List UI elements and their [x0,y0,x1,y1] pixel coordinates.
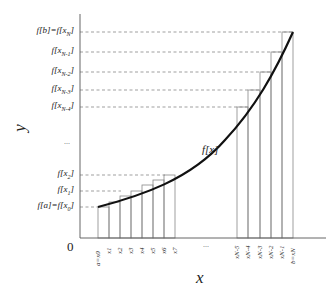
x-label-xN-3: xN-3 [256,245,264,259]
x-label-x4: x4 [138,247,146,254]
x-label-x2: x2 [116,247,124,254]
x-axis-title: x [196,268,204,288]
y-label-f-xN-3: f[xN-3] [0,83,74,95]
x-label-a: a=x0 [94,251,102,266]
function-curve [98,32,293,207]
x-label-xN-5: xN-5 [233,245,241,259]
curve-label: f[x] [202,143,219,155]
x-ellipsis: ... [203,240,209,249]
origin-label: 0 [67,239,74,255]
y-ellipsis: ... [64,137,70,146]
x-label-xN-1: xN-1 [278,245,286,259]
x-label-xN-2: xN-2 [267,245,275,259]
y-label-f-b: f[b]=f[xN] [0,25,74,37]
y-axis-title: y [10,124,30,132]
y-label-f-xN-2: f[xN-2] [0,65,74,77]
x-label-x7: x7 [171,247,179,254]
dashed-guides [80,32,293,207]
x-label-x1: x1 [105,247,113,254]
riemann-sum-diagram: f[b]=f[xN] f[xN-1] f[xN-2] f[xN-3] f[xN-… [0,0,336,297]
y-label-f-x1: f[x1] [0,184,74,196]
y-label-f-a: f[a]=f[x0] [0,200,74,212]
axes [80,14,326,238]
x-label-b: b=xN [289,248,297,264]
y-label-f-x2: f[x2] [0,168,74,180]
x-label-xN-4: xN-4 [244,245,252,259]
right-rectangles [237,32,293,238]
x-label-x5: x5 [149,247,157,254]
x-label-x3: x3 [127,247,135,254]
x-label-x6: x6 [160,247,168,254]
y-label-f-xN-1: f[xN-1] [0,45,74,57]
y-label-f-xN-4: f[xN-4] [0,100,74,112]
